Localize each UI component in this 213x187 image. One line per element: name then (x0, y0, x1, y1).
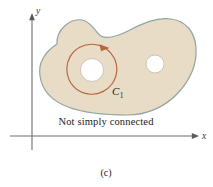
region-group (40, 19, 196, 115)
x-axis-arrowhead (192, 133, 199, 139)
hole-right (146, 55, 164, 73)
figure-subcaption: (c) (100, 167, 111, 179)
figure-container: y x C1 Not simply connected (c) (0, 0, 213, 187)
x-axis-label: x (201, 131, 207, 141)
figure-canvas: y x C1 Not simply connected (c) (0, 0, 213, 187)
curve-c1-label-main: C (112, 85, 120, 97)
y-axis-label: y (35, 6, 41, 16)
region-caption: Not simply connected (58, 116, 154, 127)
hole-left (81, 59, 104, 82)
y-axis-arrowhead (29, 13, 35, 20)
curve-c1-label-subscript: 1 (120, 91, 124, 100)
region-outline (40, 19, 196, 115)
